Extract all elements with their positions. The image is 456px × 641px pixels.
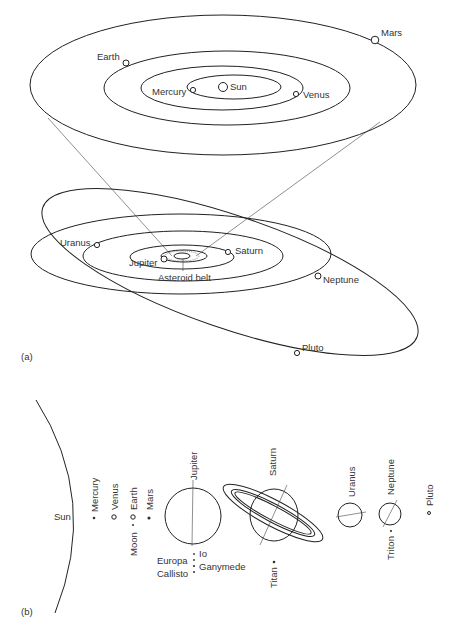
mars-label: Mars xyxy=(381,27,402,38)
mars-marker xyxy=(371,36,379,44)
jupiter-marker xyxy=(161,256,167,262)
venus-label: Venus xyxy=(303,89,330,100)
outer-system: Jupiter Saturn Uranus Neptune Pluto Aste… xyxy=(25,155,436,390)
jupiter-b-label: Jupiter xyxy=(188,451,199,480)
callisto-label: Callisto xyxy=(157,568,188,579)
titan-label: Titan xyxy=(268,567,279,588)
moon-body xyxy=(132,524,134,526)
pluto-marker xyxy=(294,350,299,355)
earth-b-label: Earth xyxy=(128,487,139,510)
projection-line-right xyxy=(196,122,380,256)
earth-body xyxy=(131,515,135,519)
sun-limb xyxy=(36,400,74,613)
neptune-marker xyxy=(315,273,321,279)
jupiter-label: Jupiter xyxy=(129,257,158,268)
saturn-label: Saturn xyxy=(235,245,263,256)
callisto-body xyxy=(193,571,195,573)
uranus-b-label: Uranus xyxy=(346,466,357,497)
solar-system-diagram: Sun Mars Earth Mercury Venus Jupiter Sat… xyxy=(0,0,456,641)
neptune-label: Neptune xyxy=(323,274,359,285)
pluto-body xyxy=(428,512,431,515)
neptune-b-label: Neptune xyxy=(385,459,396,495)
saturn-marker xyxy=(225,249,230,254)
titan-body xyxy=(273,561,276,564)
asteroid-belt-label: Asteroid belt xyxy=(158,272,211,283)
sun-b-label: Sun xyxy=(54,511,71,522)
pluto-orbit xyxy=(25,155,436,390)
mars-body xyxy=(147,516,150,519)
triton-body xyxy=(390,530,392,532)
inner-orbits xyxy=(174,253,190,259)
mercury-marker xyxy=(190,87,195,92)
venus-body xyxy=(112,515,116,519)
earth-label: Earth xyxy=(97,51,120,62)
venus-marker xyxy=(293,91,298,96)
saturn-body xyxy=(217,475,328,551)
mars-b-label: Mars xyxy=(144,489,155,510)
pluto-b-label: Pluto xyxy=(424,484,435,506)
moon-b-label: Moon xyxy=(128,532,139,556)
ganymede-body xyxy=(193,565,195,567)
projection-line-left xyxy=(48,118,172,256)
pluto-label: Pluto xyxy=(302,342,324,353)
mercury-b-label: Mercury xyxy=(89,477,100,512)
io-body xyxy=(193,553,195,555)
jupiter-orbit xyxy=(161,250,207,262)
inner-system: Sun Mars Earth Mercury Venus xyxy=(30,15,416,155)
ganymede-label: Ganymede xyxy=(199,561,245,572)
uranus-body xyxy=(338,503,362,527)
triton-label: Triton xyxy=(385,536,396,560)
europa-body xyxy=(193,559,195,561)
size-comparison: Sun (b) Mercury Venus Earth Moon Mars Ju… xyxy=(21,400,435,617)
panel-b-label: (b) xyxy=(21,606,33,617)
mercury-body xyxy=(93,517,96,520)
uranus-marker xyxy=(94,242,99,247)
sun-marker xyxy=(219,83,228,92)
panel-a-label: (a) xyxy=(21,351,33,362)
saturn-b-label: Saturn xyxy=(267,448,278,476)
mercury-label: Mercury xyxy=(152,86,187,97)
sun-label: Sun xyxy=(230,81,247,92)
venus-b-label: Venus xyxy=(109,483,120,510)
europa-label: Europa xyxy=(157,555,188,566)
uranus-label: Uranus xyxy=(60,237,91,248)
io-label: Io xyxy=(199,548,207,559)
earth-marker xyxy=(123,60,129,66)
